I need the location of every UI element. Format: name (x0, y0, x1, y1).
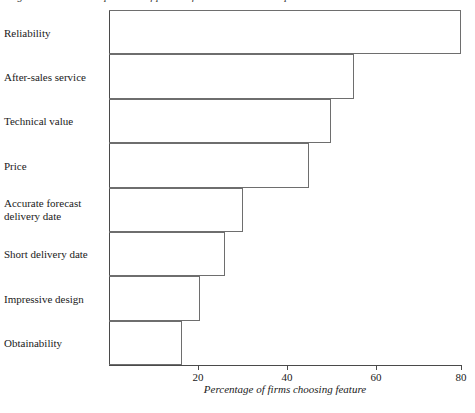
bar-row (109, 232, 461, 276)
x-tick-40 (287, 365, 288, 370)
category-label-reliability: Reliability (4, 27, 97, 40)
x-tick-20 (198, 365, 199, 370)
bar-after-sales-service (109, 54, 354, 98)
category-label-technical-value: Technical value (4, 115, 97, 128)
figure-caption: Figure 4.3 Relative importance of produc… (8, 0, 468, 2)
bar-accurate-forecast-delivery-date (109, 188, 243, 232)
bar-reliability (109, 10, 461, 54)
category-label-accurate-forecast-delivery-date: Accurate forecast delivery date (4, 197, 97, 223)
category-label-impressive-design: Impressive design (4, 293, 97, 306)
x-tick-label-60: 60 (371, 371, 382, 383)
category-label-after-sales-service: After-sales service (4, 71, 97, 84)
category-label-obtainability: Obtainability (4, 337, 97, 350)
x-axis-title: Percentage of firms choosing feature (109, 383, 461, 395)
x-tick-label-80: 80 (456, 371, 467, 383)
category-label-price: Price (4, 160, 97, 173)
bar-row (109, 54, 461, 98)
bar-series (109, 10, 461, 365)
category-label-short-delivery-date: Short delivery date (4, 248, 97, 261)
bar-row (109, 99, 461, 143)
bar-short-delivery-date (109, 232, 225, 276)
bar-row (109, 10, 461, 54)
bar-row (109, 188, 461, 232)
category-axis-labels: Reliability After-sales service Technica… (0, 10, 104, 365)
bar-technical-value (109, 99, 331, 143)
bar-price (109, 143, 309, 187)
x-axis-line (109, 365, 461, 366)
bar-row (109, 321, 461, 365)
x-tick-80 (461, 365, 462, 370)
bar-obtainability (109, 321, 182, 365)
bar-impressive-design (109, 276, 200, 320)
figure-container: Figure 4.3 Relative importance of produc… (0, 0, 475, 413)
x-tick-60 (376, 365, 377, 370)
bar-row (109, 143, 461, 187)
plot-area: 20 40 60 80 (109, 10, 461, 365)
x-tick-label-40: 40 (282, 371, 293, 383)
bar-row (109, 276, 461, 320)
x-tick-label-20: 20 (193, 371, 204, 383)
